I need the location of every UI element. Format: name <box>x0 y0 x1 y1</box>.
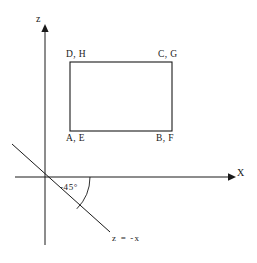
corner-label-bottom-right: B, F <box>156 134 174 144</box>
x-axis-label: X <box>237 168 244 178</box>
geometry-diagram: z X D, H C, G A, E B, F -45° z = -x <box>0 0 257 263</box>
z-axis-arrowhead <box>41 24 48 32</box>
corner-label-bottom-left: A, E <box>66 134 85 144</box>
corner-label-top-right: C, G <box>158 50 178 60</box>
z-axis-label: z <box>36 14 40 24</box>
corner-label-top-left: D, H <box>66 50 86 60</box>
projected-rectangle <box>70 62 172 131</box>
x-axis-arrowhead <box>228 173 236 181</box>
diagonal-equation-label: z = -x <box>112 234 140 243</box>
diagram-canvas <box>0 0 257 263</box>
angle-label: -45° <box>60 183 78 192</box>
